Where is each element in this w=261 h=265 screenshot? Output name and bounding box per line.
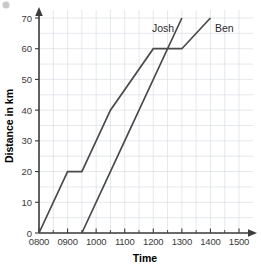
x-tick-labels: 08000900100011001200130014001500 xyxy=(29,236,249,247)
x-axis-title: Time xyxy=(133,252,157,264)
y-tick-label: 20 xyxy=(21,166,32,177)
y-tick-label: 70 xyxy=(21,13,32,24)
y-tick-labels: 010203040506070 xyxy=(21,13,32,239)
corner-marker-dot xyxy=(3,2,10,9)
y-tick-label: 40 xyxy=(21,105,32,116)
y-tick-label: 60 xyxy=(21,43,32,54)
x-tick-label: 1500 xyxy=(229,236,249,247)
y-axis-arrowhead xyxy=(35,7,43,16)
y-tick-label: 50 xyxy=(21,74,32,85)
x-tick-label: 1300 xyxy=(172,236,192,247)
x-axis-arrowhead xyxy=(248,229,257,237)
y-tick-label: 30 xyxy=(21,135,32,146)
y-tick-label: 10 xyxy=(21,197,32,208)
chart-canvas: 08000900100011001200130014001500 0102030… xyxy=(0,0,261,265)
x-tick-label: 1200 xyxy=(143,236,163,247)
y-axis-title: Distance in km xyxy=(3,89,15,163)
y-tick-label: 0 xyxy=(27,228,32,239)
x-tick-label: 1400 xyxy=(200,236,220,247)
distance-time-chart: 08000900100011001200130014001500 0102030… xyxy=(0,0,261,265)
series-label-josh: Josh xyxy=(152,22,174,34)
x-tick-label: 1000 xyxy=(86,236,106,247)
series-label-ben: Ben xyxy=(215,22,234,34)
x-tick-label: 1100 xyxy=(115,236,135,247)
x-tick-label: 0900 xyxy=(57,236,77,247)
gridlines xyxy=(39,10,253,233)
